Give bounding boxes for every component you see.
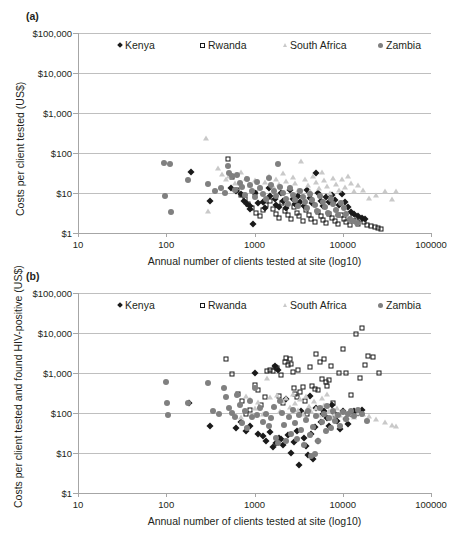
data-point-south-africa <box>393 189 399 194</box>
data-point-zambia <box>337 423 343 429</box>
gridline-y <box>78 73 431 74</box>
data-point-kenya <box>206 198 213 205</box>
x-axis-tick <box>343 493 344 497</box>
data-point-rwanda <box>289 361 294 366</box>
data-point-south-africa <box>339 177 345 182</box>
legend-item-zambia[interactable]: Zambia <box>378 39 421 51</box>
open-square-icon <box>200 303 205 308</box>
data-point-zambia <box>343 416 349 422</box>
data-point-zambia <box>164 400 170 406</box>
data-point-zambia <box>271 404 277 410</box>
x-axis-tick-label: 10 <box>73 239 84 250</box>
data-point-rwanda <box>344 371 349 376</box>
data-point-south-africa <box>303 394 309 399</box>
data-point-rwanda <box>353 331 358 336</box>
legend-item-rwanda[interactable]: Rwanda <box>200 39 247 51</box>
data-point-zambia <box>359 411 365 417</box>
data-point-rwanda <box>340 346 345 351</box>
x-axis-tick <box>431 233 432 237</box>
data-point-south-africa <box>298 159 304 164</box>
data-point-south-africa <box>373 192 379 197</box>
x-axis-tick-label: 10000 <box>330 499 356 510</box>
data-point-zambia <box>222 190 228 196</box>
x-axis-tick <box>78 233 79 237</box>
y-axis-tick-label: $10 <box>56 188 72 199</box>
data-point-south-africa <box>290 391 296 396</box>
data-point-rwanda <box>289 217 294 222</box>
data-point-zambia <box>351 413 357 419</box>
data-point-rwanda <box>314 351 319 356</box>
data-point-zambia <box>294 436 300 442</box>
y-axis-line <box>78 293 79 493</box>
diamond-icon <box>117 302 123 308</box>
y-axis-tick-label: $100 <box>51 408 72 419</box>
data-point-south-africa <box>342 185 348 190</box>
diamond-icon <box>117 42 123 48</box>
data-point-south-africa <box>203 135 209 140</box>
data-point-rwanda <box>327 378 332 383</box>
data-point-south-africa <box>382 419 388 424</box>
data-point-kenya <box>251 369 258 376</box>
data-point-south-africa <box>360 187 366 192</box>
legend-item-south-africa[interactable]: South Africa <box>283 299 347 311</box>
triangle-icon <box>283 303 287 307</box>
x-axis-tick <box>255 493 256 497</box>
y-axis-tick-label: $10,000 <box>38 68 72 79</box>
data-point-south-africa <box>310 174 316 179</box>
data-point-zambia <box>304 205 310 211</box>
data-point-south-africa <box>313 179 319 184</box>
data-point-zambia <box>295 203 301 209</box>
data-point-zambia <box>216 411 222 417</box>
data-point-zambia <box>283 438 289 444</box>
data-point-zambia <box>315 438 321 444</box>
data-point-rwanda <box>300 384 305 389</box>
data-point-rwanda <box>324 220 329 225</box>
data-point-zambia <box>328 425 334 431</box>
gridline-y <box>78 453 431 454</box>
data-point-zambia <box>237 402 243 408</box>
data-point-zambia <box>354 220 360 226</box>
data-point-zambia <box>252 194 258 200</box>
data-point-south-africa <box>324 183 330 188</box>
data-point-rwanda <box>336 371 341 376</box>
data-point-zambia <box>168 209 174 215</box>
data-point-zambia <box>313 413 319 419</box>
data-point-south-africa <box>345 174 351 179</box>
legend-item-kenya[interactable]: Kenya <box>118 39 155 51</box>
x-axis-tick-label: 10000 <box>330 239 356 250</box>
legend-item-rwanda[interactable]: Rwanda <box>200 299 247 311</box>
data-point-zambia <box>234 172 240 178</box>
data-point-south-africa <box>324 391 330 396</box>
legend-item-south-africa[interactable]: South Africa <box>283 39 347 51</box>
data-point-south-africa <box>348 180 354 185</box>
legend-item-zambia[interactable]: Zambia <box>378 299 421 311</box>
x-axis-tick-label: 100000 <box>415 499 447 510</box>
legend-label: Zambia <box>386 39 421 51</box>
data-point-zambia <box>296 412 302 418</box>
data-point-south-africa <box>273 176 279 181</box>
data-point-rwanda <box>335 221 340 226</box>
data-point-rwanda <box>321 356 326 361</box>
data-point-zambia <box>257 405 263 411</box>
data-point-zambia <box>279 410 285 416</box>
x-axis-tick <box>166 493 167 497</box>
data-point-zambia <box>242 192 248 198</box>
data-point-south-africa <box>292 180 298 185</box>
legend-label: South Africa <box>290 299 347 311</box>
circle-icon <box>378 303 383 308</box>
data-point-zambia <box>210 408 216 414</box>
data-point-south-africa <box>238 414 244 419</box>
y-axis-tick-label: $100 <box>51 148 72 159</box>
chart-panel-b: (b) Costs per client tested and found HI… <box>0 262 451 538</box>
data-point-south-africa <box>389 197 395 202</box>
data-point-rwanda <box>331 400 336 405</box>
data-point-south-africa <box>373 416 379 421</box>
data-point-zambia <box>305 408 311 414</box>
data-point-south-africa <box>382 189 388 194</box>
y-axis-tick-label: $1 <box>61 488 72 499</box>
data-point-south-africa <box>280 171 286 176</box>
legend-item-kenya[interactable]: Kenya <box>118 299 155 311</box>
data-point-zambia <box>205 380 211 386</box>
y-axis-tick-label: $1,000 <box>43 108 72 119</box>
data-point-rwanda <box>230 371 235 376</box>
